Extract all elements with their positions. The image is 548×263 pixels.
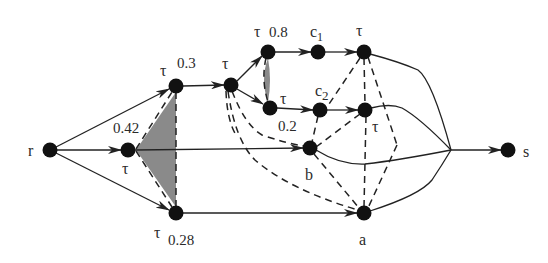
dashed-tr2-b — [316, 114, 360, 147]
label-tau-right-mid: τ — [372, 118, 379, 135]
node-tau-02 — [263, 101, 278, 116]
node-tau-right-mid — [358, 103, 373, 118]
label-c2: c2 — [315, 82, 329, 103]
dashed-tr2-a — [364, 116, 366, 207]
edge-tmid-t02 — [237, 89, 263, 104]
edge-tmid-t08 — [237, 56, 262, 81]
label-weight-02: 0.2 — [278, 118, 297, 134]
edge-t02-c2 — [277, 108, 313, 110]
label-tau-mid: τ — [222, 55, 229, 72]
label-tau-08: τ — [254, 23, 261, 40]
label-c1: c1 — [310, 23, 323, 44]
node-tau-03 — [169, 79, 184, 94]
dashed-c2-b — [312, 116, 318, 142]
dashed-tr1-c2 — [325, 58, 360, 110]
node-tau-042 — [121, 143, 136, 158]
node-s — [501, 143, 516, 158]
node-tau-08 — [261, 45, 276, 60]
edge-a-junction — [370, 150, 451, 211]
label-weight-08: 0.8 — [269, 24, 288, 40]
node-tau-right-top — [357, 45, 372, 60]
graph-canvas: r s a b 0.42 τ τ 0.3 τ 0.28 τ τ 0.8 τ 0.… — [0, 0, 548, 263]
label-tau-right-top: τ — [356, 22, 363, 39]
label-weight-042: 0.42 — [113, 120, 139, 136]
dashed-tr1-tr2 — [364, 58, 365, 104]
edge-tr1-junction — [370, 54, 451, 150]
node-a — [357, 206, 372, 221]
node-tau-028 — [169, 206, 184, 221]
node-c1 — [311, 45, 326, 60]
node-b — [303, 141, 318, 156]
label-weight-03: 0.3 — [177, 55, 196, 71]
label-s: s — [523, 143, 529, 160]
label-weight-028: 0.28 — [168, 232, 194, 248]
node-tau-mid — [224, 78, 239, 93]
label-tau-03: τ — [160, 62, 167, 79]
label-tau-042: τ — [122, 160, 129, 177]
dashed-tr1-a-2 — [368, 145, 397, 208]
node-c2 — [313, 103, 328, 118]
edge-b-junction — [316, 150, 451, 164]
node-r — [43, 143, 58, 158]
label-r: r — [28, 142, 34, 159]
dashed-b-a — [314, 154, 359, 208]
label-a: a — [359, 231, 366, 248]
label-tau-028: τ — [154, 224, 161, 241]
label-b: b — [305, 166, 313, 183]
label-tau-02: τ — [280, 90, 287, 107]
edge-t03-tmid — [183, 85, 224, 86]
